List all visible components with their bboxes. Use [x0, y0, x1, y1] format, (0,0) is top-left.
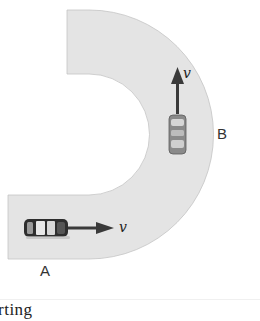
car-a [24, 219, 70, 239]
point-label-b: B [217, 125, 227, 142]
point-label-a: A [40, 262, 50, 279]
velocity-label-b: v [183, 65, 191, 81]
car-b [169, 115, 186, 154]
caption-text: rting [0, 300, 33, 320]
velocity-label-a: v [119, 219, 127, 235]
divider [0, 299, 260, 300]
